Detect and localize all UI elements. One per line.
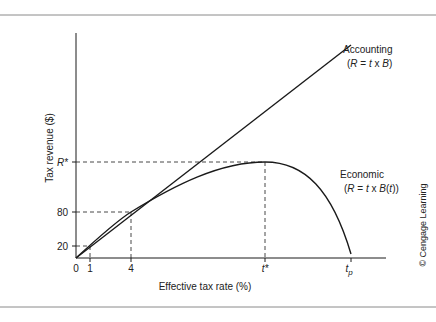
x-tick-tstar: t* (262, 263, 270, 274)
dashed-guides (76, 162, 265, 258)
x-tick-1: 1 (87, 263, 93, 274)
y-axis-title: Tax revenue ($) (44, 113, 55, 182)
y-tick-rstar: R* (57, 157, 69, 168)
x-tick-0: 0 (73, 263, 79, 274)
economic-label: Economic (340, 169, 384, 180)
y-tick-80: 80 (57, 207, 69, 218)
x-axis-title: Effective tax rate (%) (159, 281, 252, 292)
economic-curve (76, 162, 351, 258)
y-tick-20: 20 (57, 241, 69, 252)
x-tick-tp: tp (345, 263, 353, 277)
accounting-label: Accounting (343, 44, 392, 55)
accounting-formula: (R = t x B) (347, 58, 392, 69)
x-tick-4: 4 (128, 263, 134, 274)
tax-revenue-chart: Accounting (R = t x B) Economic (R = t x… (0, 0, 436, 322)
accounting-line (76, 45, 351, 258)
copyright-credit: © Cengage Learning (418, 183, 428, 266)
economic-formula: (R = t x B(t)) (344, 183, 399, 194)
